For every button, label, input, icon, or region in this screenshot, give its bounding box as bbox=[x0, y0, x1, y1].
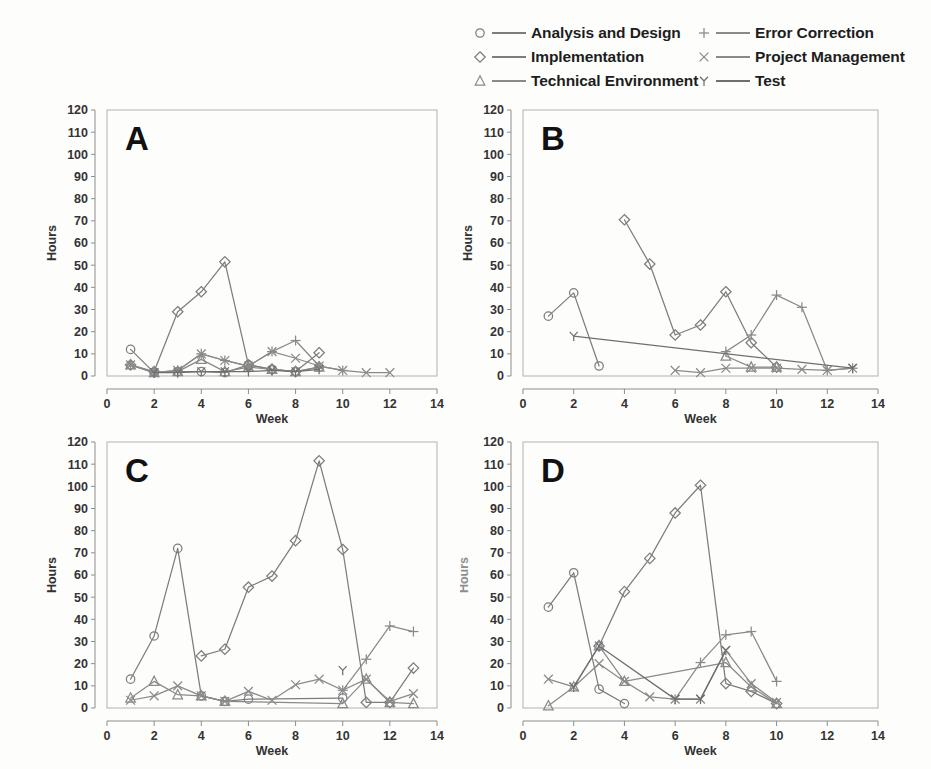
y-tick-label: 120 bbox=[67, 435, 88, 449]
y-tick-label: 60 bbox=[490, 568, 504, 582]
x-tick-label: 2 bbox=[151, 397, 158, 411]
data-point bbox=[315, 675, 324, 684]
legend-line-sample bbox=[714, 75, 752, 87]
y-tick-label: 70 bbox=[74, 546, 88, 560]
y-tick-label: 110 bbox=[68, 126, 88, 140]
x-tick-label: 6 bbox=[245, 397, 252, 411]
circle-icon bbox=[470, 23, 490, 43]
y-tick-label: 40 bbox=[74, 281, 88, 295]
y-tick-label: 0 bbox=[81, 701, 88, 715]
x-axis-title: Week bbox=[684, 412, 716, 426]
x-tick-label: 10 bbox=[336, 729, 350, 743]
y-tick-label: 50 bbox=[74, 591, 88, 605]
panel-a-plot: 0102030405060708090100110120Hours0246810… bbox=[44, 104, 444, 429]
y-tick-label: 30 bbox=[74, 635, 88, 649]
legend-item-analysis-and-design: Analysis and Design bbox=[470, 21, 681, 45]
panel-d-plot: 0102030405060708090100110120Hours0246810… bbox=[460, 432, 885, 762]
x-tick-label: 8 bbox=[722, 729, 729, 743]
y-tick-label: 50 bbox=[490, 259, 504, 273]
data-point bbox=[772, 676, 782, 686]
y-tick-label: 90 bbox=[490, 502, 504, 516]
y-tick-label: 10 bbox=[74, 347, 88, 361]
y-tick-label: 0 bbox=[497, 701, 504, 715]
y-tick-label: 120 bbox=[483, 104, 504, 117]
y-glyph-icon bbox=[694, 71, 714, 91]
x-tick-label: 2 bbox=[570, 729, 577, 743]
data-point bbox=[544, 675, 553, 684]
y-tick-label: 30 bbox=[490, 635, 504, 649]
series-analysis-and-design bbox=[126, 544, 347, 705]
y-tick-label: 120 bbox=[483, 435, 504, 449]
legend-item-label: Test bbox=[755, 72, 785, 90]
y-tick-label: 80 bbox=[490, 524, 504, 538]
chart-panel-c: 0102030405060708090100110120Hours0246810… bbox=[44, 432, 444, 762]
series-line bbox=[343, 626, 414, 690]
series-implementation bbox=[594, 480, 782, 709]
y-tick-label: 60 bbox=[74, 568, 88, 582]
diamond-icon bbox=[470, 47, 490, 67]
plus-icon bbox=[694, 23, 714, 43]
legend-item-test: Test bbox=[694, 69, 785, 93]
panel-letter: C bbox=[125, 452, 149, 489]
y-tick-label: 100 bbox=[483, 148, 504, 162]
data-point bbox=[339, 666, 347, 675]
x-tick-label: 4 bbox=[621, 729, 628, 743]
series-line bbox=[201, 461, 413, 703]
y-tick-label: 60 bbox=[490, 236, 504, 250]
x-tick-label: 14 bbox=[430, 397, 444, 411]
x-tick-label: 10 bbox=[770, 397, 784, 411]
x-tick-label: 4 bbox=[621, 397, 628, 411]
series-technical-environment bbox=[544, 641, 782, 710]
x-tick-label: 8 bbox=[292, 397, 299, 411]
data-point bbox=[408, 627, 418, 637]
legend-line-sample bbox=[490, 75, 528, 87]
y-tick-label: 40 bbox=[490, 281, 504, 295]
data-point bbox=[797, 302, 807, 312]
x-tick-label: 6 bbox=[672, 729, 679, 743]
data-point bbox=[268, 696, 277, 705]
y-axis-title: Hours bbox=[461, 225, 475, 261]
x-tick-label: 2 bbox=[151, 729, 158, 743]
series-line bbox=[131, 548, 343, 701]
legend-item-label: Implementation bbox=[531, 48, 644, 66]
series-test bbox=[570, 642, 730, 704]
legend-line-sample bbox=[490, 51, 528, 63]
x-tick-label: 14 bbox=[430, 729, 444, 743]
panel-b-plot: 0102030405060708090100110120Hours0246810… bbox=[460, 104, 885, 429]
x-tick-label: 10 bbox=[770, 729, 784, 743]
x-axis-title: Week bbox=[256, 412, 288, 426]
legend-item-label: Error Correction bbox=[755, 24, 874, 42]
chart-legend: Analysis and DesignImplementationTechnic… bbox=[462, 20, 917, 100]
y-tick-label: 110 bbox=[484, 458, 504, 472]
x-tick-label: 0 bbox=[104, 729, 111, 743]
y-tick-label: 0 bbox=[81, 369, 88, 383]
series-line bbox=[131, 341, 343, 373]
x-tick-label: 10 bbox=[336, 397, 350, 411]
series-line bbox=[548, 646, 776, 706]
y-axis-title: Hours bbox=[45, 225, 59, 261]
legend-item-technical-environment: Technical Environment bbox=[470, 69, 698, 93]
legend-item-implementation: Implementation bbox=[470, 45, 644, 69]
data-point bbox=[746, 627, 756, 637]
x-tick-label: 0 bbox=[104, 397, 111, 411]
y-tick-label: 100 bbox=[67, 148, 88, 162]
x-tick-label: 4 bbox=[198, 397, 205, 411]
x-tick-label: 6 bbox=[672, 397, 679, 411]
y-tick-label: 80 bbox=[74, 524, 88, 538]
y-tick-label: 10 bbox=[490, 347, 504, 361]
x-axis-title: Week bbox=[256, 744, 288, 758]
legend-line-sample bbox=[714, 27, 752, 39]
series-line bbox=[131, 262, 320, 372]
plot-frame bbox=[107, 110, 437, 376]
x-tick-label: 12 bbox=[383, 397, 397, 411]
y-tick-label: 80 bbox=[74, 192, 88, 206]
triangle-icon bbox=[470, 71, 490, 91]
data-point bbox=[721, 347, 731, 357]
data-point bbox=[595, 659, 604, 668]
series-error-correction bbox=[670, 627, 781, 705]
series-line bbox=[574, 336, 853, 368]
y-tick-label: 70 bbox=[490, 546, 504, 560]
panel-letter: D bbox=[541, 452, 565, 489]
y-tick-label: 20 bbox=[74, 325, 88, 339]
chart-panel-d: 0102030405060708090100110120Hours0246810… bbox=[460, 432, 885, 762]
